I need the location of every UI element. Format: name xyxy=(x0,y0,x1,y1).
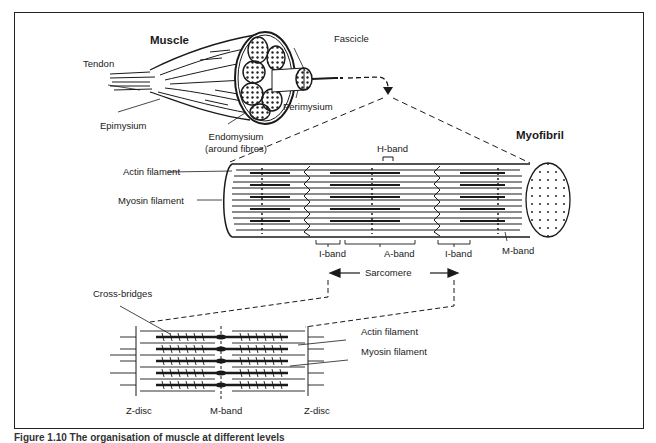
label-cross-bridges: Cross-bridges xyxy=(93,289,152,299)
label-endomysium-note: (around fibres) xyxy=(205,144,267,154)
label-perimysium: Perimysium xyxy=(283,102,333,112)
label-z-disc-right: Z-disc xyxy=(304,406,330,416)
label-i-band-right: I-band xyxy=(445,249,472,259)
label-actin-filament-top: Actin filament xyxy=(123,167,180,177)
label-a-band: A-band xyxy=(384,249,415,259)
zoom-arrow xyxy=(348,77,393,95)
fascicle-drawing xyxy=(272,68,345,92)
label-tendon: Tendon xyxy=(83,59,114,69)
label-myosin-filament-top: Myosin filament xyxy=(118,196,184,206)
label-muscle: Muscle xyxy=(150,35,189,47)
label-m-band-top: M-band xyxy=(502,246,534,256)
label-i-band-left: I-band xyxy=(319,249,346,259)
sarcomere-drawing xyxy=(110,326,324,400)
label-z-disc-left: Z-disc xyxy=(126,406,152,416)
label-fascicle: Fascicle xyxy=(334,34,369,44)
zoom-lines-sarcomere xyxy=(150,280,454,327)
myofibril-drawing xyxy=(224,157,570,247)
label-sarcomere: Sarcomere xyxy=(365,268,411,278)
label-endomysium: Endomysium xyxy=(209,132,264,142)
label-myofibril: Myofibril xyxy=(516,130,564,142)
label-m-band-bottom: M-band xyxy=(210,406,242,416)
label-actin-filament-bottom: Actin filament xyxy=(361,327,418,337)
label-h-band: H-band xyxy=(377,144,408,154)
label-epimysium: Epimysium xyxy=(100,121,146,131)
figure-caption: Figure 1.10 The organisation of muscle a… xyxy=(14,432,285,443)
label-myosin-filament-bottom: Myosin filament xyxy=(361,347,427,357)
